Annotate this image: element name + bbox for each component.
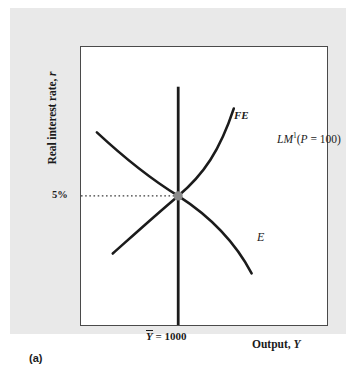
figure-caption: (a) (29, 352, 42, 364)
lm-curve-label: LM1(P = 100) (277, 131, 341, 145)
x-axis-title-variable: Y (294, 338, 301, 350)
lm-label-price-var: P (301, 133, 308, 145)
equilibrium-point-label: E (257, 230, 264, 245)
y-axis-title: Real interest rate, r (46, 38, 58, 198)
is-curve (113, 109, 234, 254)
figure-panel: FE LM1(P = 100) E Real interest rate, r … (10, 8, 346, 334)
x-axis-title: Output, Y (252, 338, 301, 350)
y-axis-tick-label: Y = 1000 (146, 330, 187, 343)
y-axis-title-text: Real interest rate, (46, 76, 58, 164)
lm-label-price-value: = 100 (308, 133, 338, 145)
x-axis-title-text: Output, (252, 338, 294, 350)
r-axis-tick-label: 5% (52, 189, 68, 200)
y-axis-title-variable: r (46, 72, 58, 76)
lm-label-paren-close: ) (337, 133, 341, 145)
lm-label-base: LM (277, 133, 293, 145)
equilibrium-marker (174, 191, 183, 200)
lm-curve (97, 132, 252, 273)
plot-canvas (81, 47, 327, 325)
y-bar-variable: Y (146, 330, 153, 343)
plot-area: FE LM1(P = 100) E (80, 46, 328, 326)
y-bar-value: = 1000 (153, 330, 187, 342)
fe-curve-label: FE (234, 109, 249, 121)
